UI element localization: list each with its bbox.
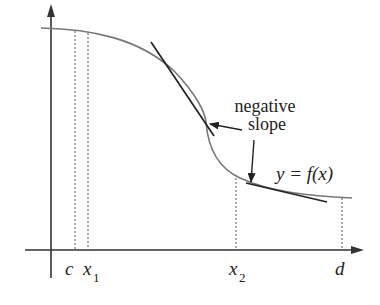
curve-label: y = f(x) bbox=[274, 163, 333, 185]
tangent-line-steep bbox=[151, 42, 214, 136]
label-c: c bbox=[65, 258, 74, 279]
decreasing-function-diagram: negative slope y = f(x) c x 1 x 2 d bbox=[0, 0, 380, 305]
x-axis-arrow-icon bbox=[351, 246, 364, 254]
svg-text:x: x bbox=[82, 258, 92, 279]
label-x2: x 2 bbox=[228, 258, 246, 285]
label-x1: x 1 bbox=[82, 258, 100, 285]
y-axis bbox=[47, 4, 55, 278]
annotation-slope: slope bbox=[248, 114, 286, 134]
svg-text:1: 1 bbox=[93, 270, 100, 285]
annotation-arrow-to-steep-tangent bbox=[210, 124, 242, 130]
annotation-negative: negative bbox=[235, 96, 296, 116]
label-d: d bbox=[335, 258, 345, 279]
tangent-line-shallow bbox=[246, 183, 327, 202]
svg-text:x: x bbox=[228, 258, 238, 279]
svg-text:2: 2 bbox=[239, 270, 246, 285]
annotation-arrow-to-shallow-tangent bbox=[251, 140, 254, 182]
y-axis-arrow-icon bbox=[47, 4, 55, 17]
x-axis bbox=[25, 246, 364, 254]
